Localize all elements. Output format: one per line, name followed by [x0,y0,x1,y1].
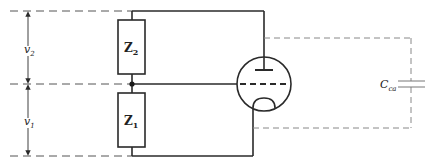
v1-label: v1 [24,115,35,130]
junction-dot [129,81,134,86]
circuit-diagram: v2 v1 Z2 Z1 [0,0,439,164]
triode-tube [237,57,291,111]
v2-label: v2 [24,43,35,58]
capacitor-cca [398,81,425,87]
cca-label: Cca [380,78,397,93]
